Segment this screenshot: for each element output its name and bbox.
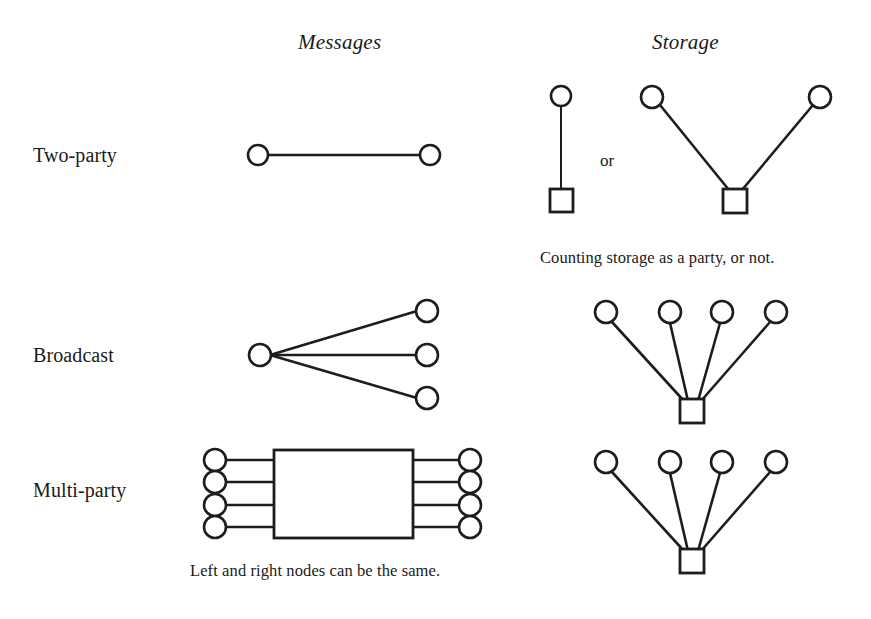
protocol-taxonomy-figure: Messages Storage Two-party Broadcast Mul… bbox=[0, 0, 871, 619]
party-node-circle bbox=[711, 451, 733, 473]
storage-node-square bbox=[680, 549, 704, 573]
edge-party-to-storage bbox=[698, 473, 720, 551]
party-node-circle bbox=[765, 451, 787, 473]
party-node-circle bbox=[595, 451, 617, 473]
diagram-multi-party-storage bbox=[0, 0, 871, 619]
edge-party-to-storage bbox=[701, 472, 770, 551]
party-node-circle bbox=[659, 451, 681, 473]
